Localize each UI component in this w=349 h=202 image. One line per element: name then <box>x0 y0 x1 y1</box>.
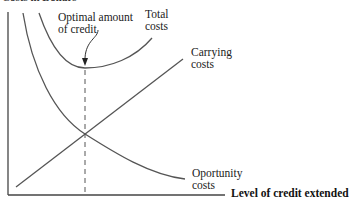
carrying-costs-label-line1: Carrying <box>191 46 232 58</box>
optimal-label-line1: Optimal amount <box>58 11 133 23</box>
total-costs-label-line2: costs <box>145 20 168 32</box>
arrowhead-icon <box>82 58 88 66</box>
opportunity-costs-label-line1: Oportunity <box>192 167 242 179</box>
optimal-label-line2: of credit <box>58 23 97 35</box>
x-axis-label: Level of credit extended <box>231 187 349 199</box>
opportunity-costs-label-line2: costs <box>192 179 215 191</box>
opportunity-costs-curve <box>23 13 185 179</box>
carrying-costs-label-line2: costs <box>191 58 214 70</box>
total-costs-label-line1: Total <box>145 8 168 20</box>
